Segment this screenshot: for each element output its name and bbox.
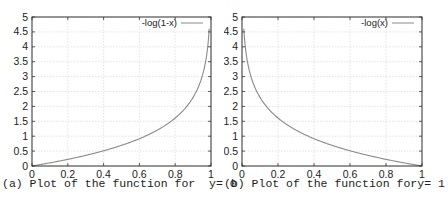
series-line	[244, 29, 422, 166]
legend: -log(x)	[361, 17, 414, 28]
caption-a: (a) Plot of the function for y= 0	[2, 177, 237, 190]
y-tick-label: 4	[232, 40, 238, 52]
legend-label: -log(1-x)	[142, 17, 177, 28]
legend: -log(1-x)	[142, 17, 203, 28]
legend-label: -log(x)	[361, 17, 388, 28]
grid	[242, 17, 422, 166]
y-tick-label: 0.5	[13, 145, 28, 157]
y-tick-label: 3	[232, 70, 238, 82]
y-tick-label: 1.5	[224, 115, 238, 127]
y-tick-label: 2	[22, 100, 28, 112]
y-tick-label: 3.5	[224, 55, 238, 67]
y-tick-label: 4	[22, 40, 28, 52]
y-tick-label: 3.5	[13, 55, 28, 67]
y-tick-label: 1	[22, 130, 28, 142]
y-tick-label: 5	[22, 11, 28, 23]
grid	[32, 17, 211, 166]
y-tick-label: 1.5	[13, 115, 28, 127]
y-tick-label: 4.5	[13, 25, 28, 37]
y-tick-label: 0	[22, 160, 28, 172]
y-tick-label: 2	[232, 100, 238, 112]
y-tick-label: 4.5	[224, 25, 238, 37]
y-tick-label: 2.5	[13, 85, 28, 97]
y-tick-label: 0.5	[224, 145, 238, 157]
chart-panel-a: 00.20.40.60.8100.511.522.533.544.55-log(…	[0, 0, 224, 209]
axes-frame	[32, 17, 211, 166]
y-tick-label: 0	[232, 160, 238, 172]
y-tick-label: 3	[22, 70, 28, 82]
series-line	[32, 29, 209, 166]
y-tick-label: 5	[232, 11, 238, 23]
caption-b: (b) Plot of the function fory= 1	[224, 177, 445, 190]
chart-panel-b: 00.20.40.60.8100.511.522.533.544.55-log(…	[224, 0, 448, 209]
y-tick-label: 2.5	[224, 85, 238, 97]
y-tick-label: 1	[232, 130, 238, 142]
